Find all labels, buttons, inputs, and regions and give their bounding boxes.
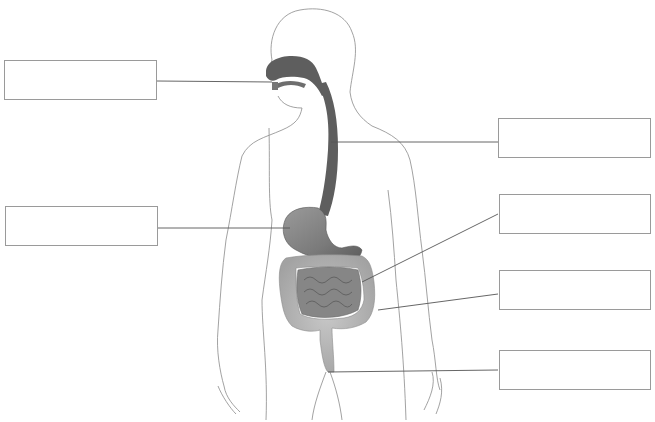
label-box-small-intestine[interactable] [499,194,651,234]
esophagus [318,82,338,216]
label-box-large-intestine[interactable] [499,270,651,310]
digestive-system-diagram [0,0,655,422]
stomach [283,207,362,262]
label-box-rectum[interactable] [499,350,651,390]
small-intestine [297,267,361,317]
label-box-mouth[interactable] [4,60,157,100]
mouth-pharynx [266,56,326,96]
label-box-stomach[interactable] [5,206,158,246]
label-box-esophagus[interactable] [498,118,651,158]
